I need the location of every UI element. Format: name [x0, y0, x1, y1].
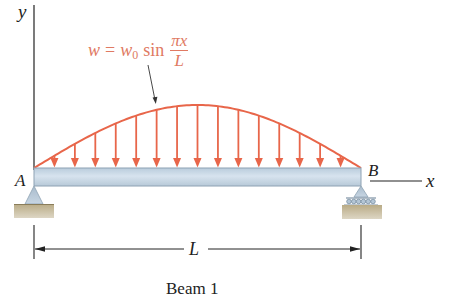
load-arrow — [296, 133, 304, 168]
formula-lhs: w — [88, 40, 100, 61]
support-label-b: B — [368, 162, 378, 179]
roller-support-b — [342, 186, 382, 219]
y-axis-label: y — [18, 2, 26, 21]
x-axis-label: x — [426, 171, 434, 190]
load-arrow — [112, 123, 120, 167]
load-arrow — [255, 116, 263, 168]
formula-leader-line — [148, 65, 157, 104]
formula-sin: sin — [143, 40, 164, 61]
formula-subscript: 0 — [132, 48, 138, 63]
pin-support-a — [14, 186, 54, 218]
load-arrow — [194, 105, 202, 168]
formula-w: w — [120, 40, 132, 61]
beam — [34, 168, 361, 186]
load-arrow — [316, 144, 324, 168]
beam-diagram: y x A B L Beam 1 w = w 0 sin πx L — [0, 0, 449, 305]
load-arrow — [153, 110, 161, 168]
load-arrow — [173, 106, 181, 167]
roller-icon — [366, 199, 371, 204]
load-arrow — [91, 133, 99, 168]
load-formula: w = w 0 sin πx L — [88, 32, 188, 69]
roller-icon — [361, 199, 366, 204]
support-label-a: A — [15, 172, 25, 189]
formula-equals: = — [105, 40, 115, 61]
load-arrow — [234, 110, 242, 168]
roller-icon — [371, 199, 376, 204]
distributed-load — [34, 105, 361, 168]
load-arrow — [275, 123, 283, 167]
formula-fraction: πx L — [170, 32, 188, 69]
load-arrow — [132, 116, 140, 168]
formula-denominator: L — [175, 51, 184, 69]
formula-numerator: πx — [170, 32, 188, 51]
dimension-label-l: L — [189, 240, 199, 258]
figure-caption: Beam 1 — [166, 280, 218, 297]
diagram-canvas — [0, 0, 449, 305]
roller-icon — [347, 199, 352, 204]
roller-icon — [356, 199, 361, 204]
load-arrow — [71, 144, 79, 168]
roller-icon — [352, 199, 357, 204]
load-arrow — [214, 106, 222, 167]
